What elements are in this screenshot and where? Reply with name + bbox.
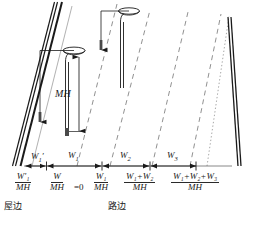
annotation-house-side: 屋边	[4, 199, 22, 212]
mounting-height-label: MH	[55, 89, 71, 99]
fraction-denominator: MH	[131, 183, 149, 193]
fraction-denominator: MH	[186, 183, 204, 193]
segment-label-w1-prime: W1′	[31, 152, 44, 163]
fraction-denominator: MH	[14, 183, 32, 193]
annotation-road-side: 路边	[108, 199, 126, 212]
fraction-denominator: MH	[48, 183, 66, 193]
axis-fraction-w1-plus-w2-plus-w3-over-mh: W₁+W₂+W₃ MH	[171, 172, 219, 193]
mh-dimension-far	[100, 11, 129, 50]
lane-boundary-dashed-2	[110, 10, 150, 166]
luminaire-head-far	[119, 8, 140, 15]
lane-boundary-thin-solid	[32, 6, 72, 166]
luminaire-head-near	[63, 47, 85, 55]
lane-boundary-dashed-3	[152, 12, 188, 166]
fraction-denominator: MH	[92, 183, 110, 193]
lane-boundary-dashed-1	[77, 4, 117, 166]
segment-label-w3: W3	[167, 151, 178, 162]
segment-label-w1: W1	[68, 151, 79, 162]
fraction-numerator: W	[51, 172, 63, 183]
fraction-numerator: W′₁	[15, 172, 32, 183]
fraction-numerator: W₁	[94, 172, 109, 183]
lane-boundary-dotted	[207, 16, 229, 166]
lane-boundary-dashed-4	[190, 14, 221, 166]
luminaire-pole-far	[119, 8, 140, 88]
fraction-numerator: W₁+W₂	[124, 172, 155, 183]
far-kerb-lines	[228, 17, 241, 166]
axis-fraction-w1prime-over-mh: W′₁ MH	[14, 172, 32, 193]
house-edge-lines	[13, 2, 63, 166]
axis-fraction-w1-plus-w2-over-mh: W₁+W₂ MH	[124, 172, 155, 193]
zero-station-equality: =0	[74, 182, 84, 192]
axis-fraction-w-over-mh: W MH	[48, 172, 66, 193]
segment-label-w2: W2	[120, 151, 131, 162]
axis-fraction-w1-over-mh: W₁ MH	[92, 172, 110, 193]
figure-canvas: W1′ W1 W2 W3 MH W′₁ MH W MH =0 W₁ MH W₁+…	[0, 0, 255, 225]
fraction-numerator: W₁+W₂+W₃	[171, 172, 219, 183]
